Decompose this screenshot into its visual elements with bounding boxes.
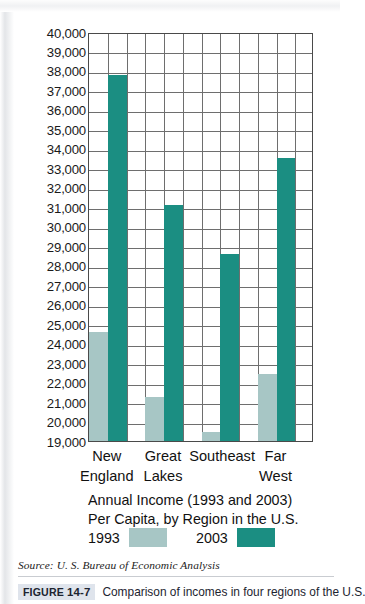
x-axis-category-line-2: Lakes <box>133 466 193 486</box>
bar-great-lakes-2003 <box>164 205 183 441</box>
legend-item-2003: 2003 <box>196 528 275 547</box>
vertical-gridline <box>183 34 184 441</box>
x-axis-category-label: FarWest <box>246 446 306 486</box>
vertical-gridline <box>295 34 296 441</box>
y-axis-tick-label: 27,000 <box>18 280 86 293</box>
figure-caption: FIGURE 14-7 Comparison of incomes in fou… <box>18 582 338 602</box>
y-axis-tick-label: 26,000 <box>18 299 86 312</box>
x-axis-category-line-2: England <box>77 466 137 486</box>
y-axis-tick-label: 33,000 <box>18 163 86 176</box>
figure-tag-number: 14-7 <box>67 586 90 598</box>
x-axis-category-line-1: New <box>92 448 121 464</box>
y-axis-tick-label: 24,000 <box>18 338 86 351</box>
bar-new-england-2003 <box>108 75 127 441</box>
y-axis-tick-label: 23,000 <box>18 358 86 371</box>
y-axis-tick-label: 31,000 <box>18 202 86 215</box>
source-note: Source: U. S. Bureau of Economic Analysi… <box>18 559 220 571</box>
bar-southeast-2003 <box>220 254 239 441</box>
figure-number-badge: FIGURE 14-7 <box>18 584 95 600</box>
legend-item-1993: 1993 <box>88 528 167 547</box>
y-axis-tick-label: 20,000 <box>18 416 86 429</box>
y-axis-tick-label: 38,000 <box>18 65 86 78</box>
caption-divider <box>18 576 334 577</box>
vertical-gridline <box>145 34 146 441</box>
y-axis-tick-label: 37,000 <box>18 85 86 98</box>
bar-southeast-1993 <box>202 432 221 441</box>
chart-legend: 19932003 <box>88 528 313 552</box>
horizontal-gridline <box>89 73 312 74</box>
figure-tag-word: FIGURE <box>23 586 64 598</box>
y-axis-tick-label: 28,000 <box>18 260 86 273</box>
y-axis-tick-label: 25,000 <box>18 319 86 332</box>
horizontal-gridline <box>89 53 312 54</box>
legend-label: 2003 <box>196 530 228 546</box>
legend-color-swatch <box>237 528 275 547</box>
y-axis-tick-label: 36,000 <box>18 104 86 117</box>
x-axis: NewEnglandGreatLakesSoutheastFarWest <box>88 446 313 492</box>
y-axis-tick-label: 32,000 <box>18 182 86 195</box>
legend-color-swatch <box>129 528 167 547</box>
x-axis-category-line-1: Far <box>265 448 287 464</box>
figure-caption-text: Comparison of incomes in four regions of… <box>102 585 365 599</box>
chart-title: Annual Income (1993 and 2003) Per Capita… <box>88 491 326 529</box>
y-axis-tick-label: 39,000 <box>18 46 86 59</box>
y-axis-tick-label: 29,000 <box>18 241 86 254</box>
bar-new-england-1993 <box>89 332 108 441</box>
vertical-gridline <box>239 34 240 441</box>
y-axis-tick-label: 22,000 <box>18 377 86 390</box>
y-axis: 40,00039,00038,00037,00036,00035,00034,0… <box>18 33 86 442</box>
chart-title-line-1: Annual Income (1993 and 2003) <box>88 491 326 510</box>
y-axis-tick-label: 21,000 <box>18 397 86 410</box>
x-axis-category-label: NewEngland <box>77 446 137 486</box>
vertical-gridline <box>202 34 203 441</box>
x-axis-category-line-1: Great <box>145 448 182 464</box>
y-axis-tick-label: 40,000 <box>18 27 86 40</box>
x-axis-category-label: Southeast <box>189 446 249 466</box>
plot-area <box>88 33 313 442</box>
bar-great-lakes-1993 <box>145 397 164 441</box>
y-axis-tick-label: 35,000 <box>18 124 86 137</box>
legend-label: 1993 <box>88 530 120 546</box>
chart-title-line-2: Per Capita, by Region in the U.S. <box>88 510 326 529</box>
y-axis-tick-label: 34,000 <box>18 143 86 156</box>
bar-far-west-1993 <box>258 374 277 441</box>
bar-far-west-2003 <box>277 158 296 441</box>
vertical-gridline <box>127 34 128 441</box>
y-axis-tick-label: 30,000 <box>18 221 86 234</box>
x-axis-category-line-2: West <box>246 466 306 486</box>
x-axis-category-label: GreatLakes <box>133 446 193 486</box>
